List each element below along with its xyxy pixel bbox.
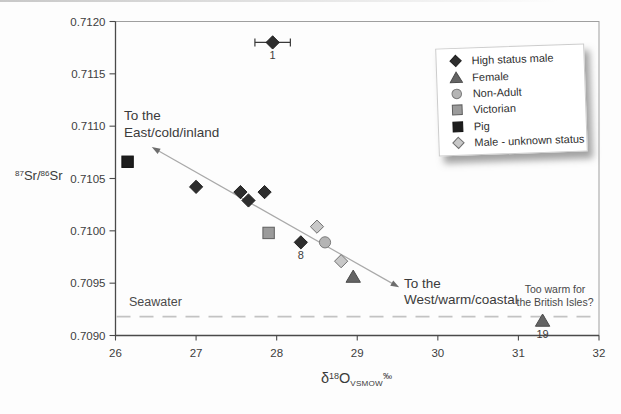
marker-circle-icon xyxy=(452,89,462,99)
y-tick-label: 0.7120 xyxy=(70,16,105,28)
annotation-line: East/cold/inland xyxy=(124,124,219,141)
data-point-circle-icon xyxy=(319,237,330,248)
arrowhead-icon xyxy=(152,147,161,154)
legend: High status maleFemaleNon-AdultVictorian… xyxy=(435,43,588,156)
data-point-square-icon xyxy=(122,156,133,167)
trend-line xyxy=(157,150,394,284)
annotation-east-cold-inland: To the East/cold/inland xyxy=(124,107,219,141)
isotope-scatter-figure: 0.71200.71150.71100.71050.71000.70950.70… xyxy=(0,0,621,414)
y-axis-title: 87Sr/86Sr xyxy=(15,168,63,183)
x-tick-label: 29 xyxy=(351,347,364,359)
y-tick-label: 0.7115 xyxy=(71,68,105,80)
y-tick-label: 0.7110 xyxy=(71,120,105,132)
data-point-diamond-icon xyxy=(266,36,279,49)
marker-diamond-icon xyxy=(453,137,465,149)
x-tick-label: 26 xyxy=(109,347,122,359)
marker-square-icon xyxy=(452,105,462,115)
seawater-label: Seawater xyxy=(129,295,182,309)
annotation-line: the British Isles? xyxy=(511,296,599,309)
y-tick-label: 0.7105 xyxy=(70,173,105,185)
annotation-too-warm: Too warm for the British Isles? xyxy=(511,283,599,309)
legend-marker-diamond-icon xyxy=(451,136,465,150)
annotation-line: Too warm for xyxy=(511,283,599,296)
legend-label: Female xyxy=(472,70,509,83)
data-point-square-icon xyxy=(263,227,274,238)
legend-marker-square-icon xyxy=(451,119,465,133)
annotation-line: West/warm/coastal xyxy=(404,292,518,308)
data-point-diamond-icon xyxy=(189,180,202,193)
x-tick-label: 28 xyxy=(270,347,283,359)
x-tick-label: 30 xyxy=(431,347,444,359)
y-tick-label: 0.7095 xyxy=(70,277,105,289)
legend-label: Male - unknown status xyxy=(474,133,584,149)
annotation-west-warm-coastal: To the West/warm/coastal xyxy=(404,276,518,308)
marker-square-icon xyxy=(453,122,463,132)
point-label: 1 xyxy=(270,49,276,61)
x-tick-label: 27 xyxy=(190,347,203,359)
x-axis-title: δ18OVSMOW‰ xyxy=(321,370,392,386)
legend-item: Male - unknown status xyxy=(451,130,586,151)
data-point-diamond-icon xyxy=(294,236,307,249)
y-tick-label: 0.7090 xyxy=(70,330,105,342)
legend-marker-diamond-icon xyxy=(448,54,462,68)
arrowhead-icon xyxy=(390,281,399,288)
point-label: 8 xyxy=(298,249,304,261)
legend-marker-square-icon xyxy=(450,103,464,117)
annotation-line: To the xyxy=(124,107,219,124)
legend-label: High status male xyxy=(471,52,553,67)
legend-marker-circle-icon xyxy=(450,87,464,101)
marker-triangle-icon xyxy=(450,72,463,83)
legend-label: Pig xyxy=(474,120,490,133)
legend-label: Victorian xyxy=(473,102,516,115)
y-tick-label: 0.7100 xyxy=(70,225,105,237)
marker-diamond-icon xyxy=(450,55,462,67)
data-point-triangle-icon xyxy=(346,270,360,282)
annotation-line: To the xyxy=(404,276,518,292)
data-point-diamond-icon xyxy=(310,220,323,233)
data-point-diamond-icon xyxy=(258,186,271,199)
x-tick-label: 32 xyxy=(593,347,606,359)
legend-label: Non-Adult xyxy=(473,86,522,100)
point-label: 19 xyxy=(536,328,548,340)
x-tick-label: 31 xyxy=(512,347,525,359)
legend-marker-triangle-icon xyxy=(449,70,463,84)
